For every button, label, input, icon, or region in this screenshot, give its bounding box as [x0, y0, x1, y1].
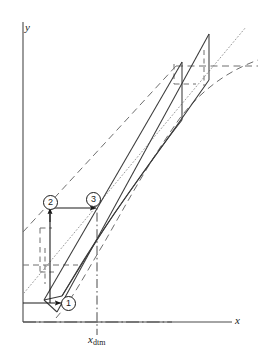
solid-profile-band	[44, 34, 209, 312]
lower-envelope-dashed	[56, 60, 258, 318]
callout-1: 1	[61, 296, 76, 311]
upper-envelope-dashed	[23, 66, 258, 232]
callout-3: 3	[86, 192, 101, 207]
diagram-root: y x xdtm 1 2 3	[0, 0, 275, 361]
datum-label: xdtm	[88, 334, 106, 347]
x-axis-label: x	[235, 315, 240, 326]
datum-label-subscript: dtm	[93, 338, 106, 347]
axis-lines	[23, 22, 232, 322]
y-axis-label: y	[25, 22, 30, 33]
callout-2: 2	[43, 195, 58, 210]
diagram-canvas	[0, 0, 275, 361]
dotted-reference-line	[24, 27, 246, 293]
leader-arrows	[23, 208, 96, 303]
